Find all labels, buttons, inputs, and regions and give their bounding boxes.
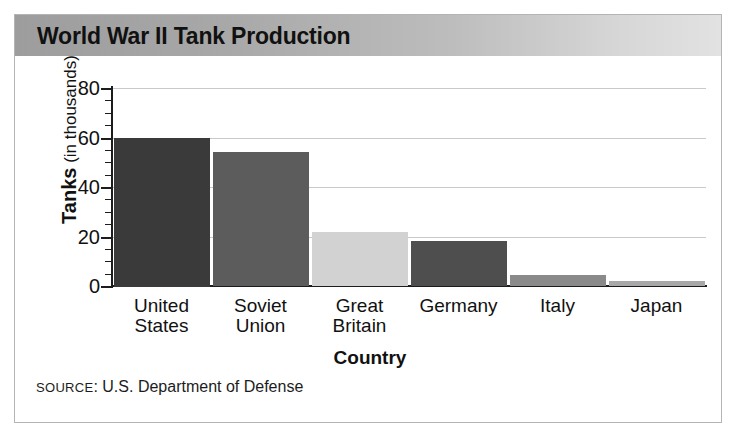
x-category-label-line: Italy: [508, 296, 607, 316]
x-category-label: SovietUnion: [211, 296, 310, 336]
source-note-separator: :: [93, 378, 102, 395]
bar: [510, 275, 606, 286]
y-axis-title: Tanks (in thousands): [58, 25, 81, 255]
x-axis-title: Country: [0, 347, 740, 369]
y-axis-title-rest: (in thousands): [61, 55, 80, 167]
y-axis-title-strong: Tanks: [58, 168, 80, 224]
x-category-label-line: Soviet: [211, 296, 310, 316]
x-category-label: GreatBritain: [310, 296, 409, 336]
source-note: SOURCE: U.S. Department of Defense: [36, 378, 303, 396]
title-bar: World War II Tank Production: [15, 15, 721, 56]
x-category-label-line: Great: [310, 296, 409, 316]
x-category-label: UnitedStates: [112, 296, 211, 336]
source-note-text: U.S. Department of Defense: [102, 378, 303, 395]
x-category-label: Japan: [607, 296, 706, 316]
bar: [609, 281, 705, 286]
bar: [312, 232, 408, 286]
x-category-label-line: Union: [211, 316, 310, 336]
bar: [213, 152, 309, 286]
x-category-label: Italy: [508, 296, 607, 316]
chart-figure: World War II Tank Production 020406080 T…: [0, 0, 740, 441]
x-category-label-line: United: [112, 296, 211, 316]
y-tick-label: 0: [56, 276, 100, 296]
bar: [411, 241, 507, 286]
x-category-label-line: Japan: [607, 296, 706, 316]
x-category-label-line: States: [112, 316, 211, 336]
source-note-prefix: SOURCE: [36, 380, 93, 395]
x-category-label-line: Britain: [310, 316, 409, 336]
y-axis-line: [111, 86, 113, 288]
gridline: [112, 88, 706, 89]
x-category-label: Germany: [409, 296, 508, 316]
bar: [114, 138, 210, 287]
x-category-label-line: Germany: [409, 296, 508, 316]
